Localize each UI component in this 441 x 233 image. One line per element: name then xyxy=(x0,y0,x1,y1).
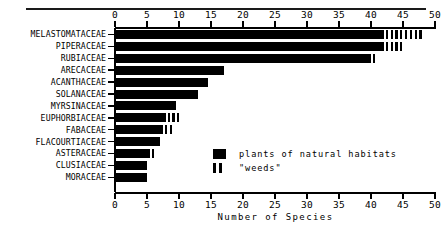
x-tick-label-top: 15 xyxy=(205,10,217,20)
bar-segment-natural-habitats xyxy=(115,78,208,87)
x-tick-top xyxy=(370,21,372,27)
x-tick-top xyxy=(434,21,436,27)
bar-segment-weeds xyxy=(395,42,397,51)
x-tick-top xyxy=(402,21,404,27)
y-tick xyxy=(108,69,114,71)
bar-row xyxy=(115,125,435,134)
legend-label: plants of natural habitats xyxy=(239,148,397,160)
x-tick-top xyxy=(146,21,148,27)
family-name-labels: MELASTOMATACEAEPIPERACEAERUBIACEAEARECAC… xyxy=(0,0,106,233)
bar-segment-weeds xyxy=(400,30,402,39)
bar-segment-weeds xyxy=(391,30,393,39)
bar-row xyxy=(115,42,435,51)
x-tick-label-top: 25 xyxy=(269,10,281,20)
x-tick-label-top: 0 xyxy=(112,10,118,20)
bar-segment-weeds xyxy=(400,42,402,51)
bar-segment-natural-habitats xyxy=(115,90,198,99)
x-tick-label-top: 30 xyxy=(301,10,313,20)
bar-row xyxy=(115,113,435,122)
family-label: MORACEAE xyxy=(66,173,106,182)
chart-legend: plants of natural habitats"weeds" xyxy=(213,148,428,178)
y-tick xyxy=(108,117,114,119)
bar-segment-weeds xyxy=(152,149,154,158)
y-tick xyxy=(108,129,114,131)
bar-segment-weeds xyxy=(410,30,412,39)
bar-segment-weeds xyxy=(405,30,407,39)
family-label: PIPERACEAE xyxy=(56,42,106,51)
y-tick xyxy=(108,46,114,48)
bar-segment-natural-habitats xyxy=(115,30,384,39)
bar-segment-natural-habitats xyxy=(115,66,224,75)
y-tick xyxy=(108,93,114,95)
x-tick-label-bottom: 35 xyxy=(333,200,345,210)
y-tick xyxy=(108,81,114,83)
y-tick xyxy=(108,177,114,179)
bar-segment-weeds xyxy=(415,30,417,39)
x-tick-label-bottom: 50 xyxy=(429,200,441,210)
x-tick-top xyxy=(114,21,116,27)
family-label: ASTERACEAE xyxy=(56,149,106,158)
bar-segment-natural-habitats xyxy=(115,101,176,110)
y-tick xyxy=(108,58,114,60)
x-tick-label-bottom: 45 xyxy=(397,200,409,210)
bar-segment-weeds xyxy=(386,42,388,51)
x-tick-top xyxy=(274,21,276,27)
family-label: ACANTHACEAE xyxy=(51,78,106,87)
family-label: MELASTOMATACEAE xyxy=(31,30,106,39)
family-label: EUPHORBIACEAE xyxy=(41,114,106,123)
x-tick-label-bottom: 25 xyxy=(269,200,281,210)
x-tick-label-top: 40 xyxy=(365,10,377,20)
bar-segment-weeds xyxy=(170,125,172,134)
bar-segment-weeds xyxy=(165,125,167,134)
x-tick-label-bottom: 5 xyxy=(144,200,150,210)
family-label: RUBIACEAE xyxy=(61,54,106,63)
bar-segment-weeds xyxy=(168,113,170,122)
x-tick-label-top: 20 xyxy=(237,10,249,20)
y-tick xyxy=(108,141,114,143)
x-axis-title: Number of Species xyxy=(115,212,436,222)
bar-segment-natural-habitats xyxy=(115,173,147,182)
bar-segment-natural-habitats xyxy=(115,125,163,134)
bar-segment-natural-habitats xyxy=(115,113,166,122)
bar-segment-weeds xyxy=(395,30,397,39)
bar-segment-weeds xyxy=(373,54,375,63)
x-tick-label-bottom: 20 xyxy=(237,200,249,210)
x-tick-label-bottom: 30 xyxy=(301,200,313,210)
bar-segment-natural-habitats xyxy=(115,42,384,51)
x-tick-label-bottom: 15 xyxy=(205,200,217,210)
bar-segment-natural-habitats xyxy=(115,54,371,63)
x-tick-label-top: 10 xyxy=(173,10,185,20)
legend-swatch-striped xyxy=(213,163,226,173)
x-tick-label-bottom: 10 xyxy=(173,200,185,210)
x-tick-label-top: 45 xyxy=(397,10,409,20)
bar-row xyxy=(115,137,435,146)
legend-label: "weeds" xyxy=(239,162,282,174)
bar-segment-weeds xyxy=(177,113,179,122)
x-tick-label-top: 5 xyxy=(144,10,150,20)
x-tick-label-top: 50 xyxy=(429,10,441,20)
y-tick xyxy=(108,105,114,107)
bar-row xyxy=(115,101,435,110)
family-label: FLACOURTIACEAE xyxy=(36,138,106,147)
bar-row xyxy=(115,54,435,63)
family-label: ARECACEAE xyxy=(61,66,106,75)
x-tick-label-bottom: 0 xyxy=(112,200,118,210)
family-label: SOLANACEAE xyxy=(56,90,106,99)
bar-segment-weeds xyxy=(386,30,388,39)
x-tick-top xyxy=(306,21,308,27)
x-tick-top xyxy=(210,21,212,27)
x-tick-top xyxy=(178,21,180,27)
legend-swatch-solid xyxy=(213,149,226,159)
bar-row xyxy=(115,66,435,75)
family-label: FABACEAE xyxy=(66,126,106,135)
bar-segment-weeds xyxy=(172,113,174,122)
y-tick xyxy=(108,34,114,36)
x-tick-top xyxy=(338,21,340,27)
family-label: CLUSIACEAE xyxy=(56,161,106,170)
bar-segment-weeds xyxy=(419,30,421,39)
family-label: MYRSINACEAE xyxy=(51,102,106,111)
y-tick xyxy=(108,153,114,155)
bar-segment-natural-habitats xyxy=(115,137,160,146)
bar-segment-natural-habitats xyxy=(115,149,150,158)
